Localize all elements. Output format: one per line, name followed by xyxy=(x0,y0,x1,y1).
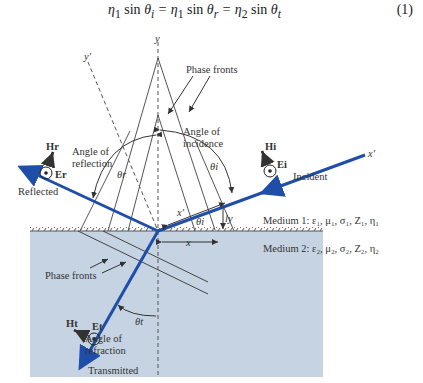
medium2-label: Medium 2: ε₂, μ₂, σ₂, Z₂, η₂ xyxy=(263,243,379,254)
reflected-field-vectors xyxy=(40,152,53,179)
theta-i-small-label: θi xyxy=(196,216,204,227)
interface-hatch xyxy=(30,227,323,231)
theta-r-label: θr xyxy=(117,169,127,180)
theta-t-label: θt xyxy=(135,316,144,327)
x-label: x xyxy=(185,237,191,248)
medium1-label: Medium 1: ε₁, μ₁, σ₁, Z₁, η₁ xyxy=(263,215,379,226)
reflected-label: Reflected xyxy=(18,186,59,197)
phase-fronts-bottom-label: Phase fronts xyxy=(45,270,97,281)
E-r-label: Er xyxy=(55,169,67,180)
angle-of-incidence-label-1: Angle of xyxy=(183,126,221,137)
angle-of-incidence-label-2: incidence xyxy=(183,138,224,149)
incident-field-vectors xyxy=(262,151,276,177)
angle-of-reflection-label-1: Angle of xyxy=(72,146,110,157)
H-t-label: Ht xyxy=(66,318,78,329)
theta-i-label: θi xyxy=(210,161,218,172)
incident-arrow xyxy=(262,190,270,193)
phase-fronts-pointer-1 xyxy=(168,76,193,114)
E-i-label: Ei xyxy=(277,159,287,170)
H-i-label: Hi xyxy=(265,141,276,152)
refraction-diagram: y y' x' x x' Phase fronts Angle of incid… xyxy=(0,0,423,383)
H-r-label: Hr xyxy=(46,141,59,152)
angle-of-refraction-label-1: Angle of xyxy=(85,333,123,344)
E-t-label: Et xyxy=(92,321,103,332)
y-axis-label: y xyxy=(154,33,160,44)
x-prime-axis-label: x' xyxy=(367,148,376,159)
y-prime-axis-label: y' xyxy=(83,51,92,62)
transmitted-label: Transmitted xyxy=(88,365,139,376)
angle-of-reflection-label-2: reflection xyxy=(72,158,113,169)
incident-label: Incident xyxy=(293,171,327,182)
x-prime-label: x' xyxy=(176,207,185,218)
phase-fronts-top-label: Phase fronts xyxy=(186,64,238,75)
angle-of-refraction-label-2: refraction xyxy=(85,345,127,356)
ly-label: ly xyxy=(225,213,233,224)
phase-fronts-pointer-2 xyxy=(189,76,210,112)
